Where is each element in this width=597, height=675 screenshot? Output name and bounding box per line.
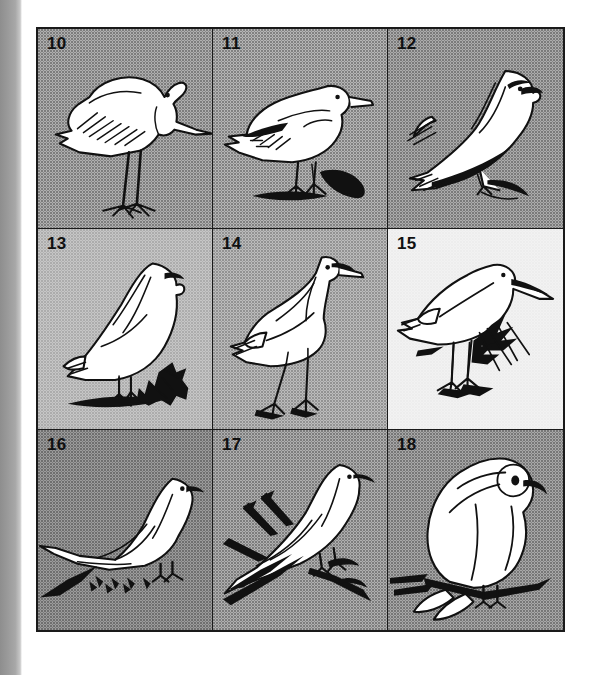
cell-number: 17 [222,435,242,455]
cell-number: 11 [222,34,241,54]
plate-cell-18[interactable]: 18 [388,430,563,630]
cell-number: 12 [397,34,417,54]
sandpiper-illustration [388,229,563,428]
dove-perched-illustration [213,430,387,630]
crane-illustration [213,229,387,428]
plate-cell-10[interactable]: 10 [38,29,213,229]
falcon-illustration [388,29,563,228]
goose-illustration [213,29,387,228]
plate-cell-14[interactable]: 14 [213,229,388,429]
cell-number: 13 [47,234,67,254]
plate-cell-13[interactable]: 13 [38,229,213,429]
cell-number: 10 [47,34,67,54]
ptarmigan-illustration [38,229,212,428]
plate-cell-15[interactable]: 15 [388,229,563,429]
plate-cell-17[interactable]: 17 [213,430,388,630]
plate-grid: 10 [38,29,563,630]
cell-number: 16 [47,435,67,455]
cell-number: 15 [397,234,417,254]
cell-number: 14 [222,234,242,254]
plate-cell-12[interactable]: 12 [388,29,563,229]
parrot-illustration [388,430,563,630]
page-gutter-shadow [0,0,22,675]
illustration-plate: 10 [36,27,565,632]
plate-cell-11[interactable]: 11 [213,29,388,229]
cell-number: 18 [397,435,417,455]
plate-cell-16[interactable]: 16 [38,430,213,630]
heron-illustration [38,29,212,228]
dove-ground-illustration [38,430,212,630]
